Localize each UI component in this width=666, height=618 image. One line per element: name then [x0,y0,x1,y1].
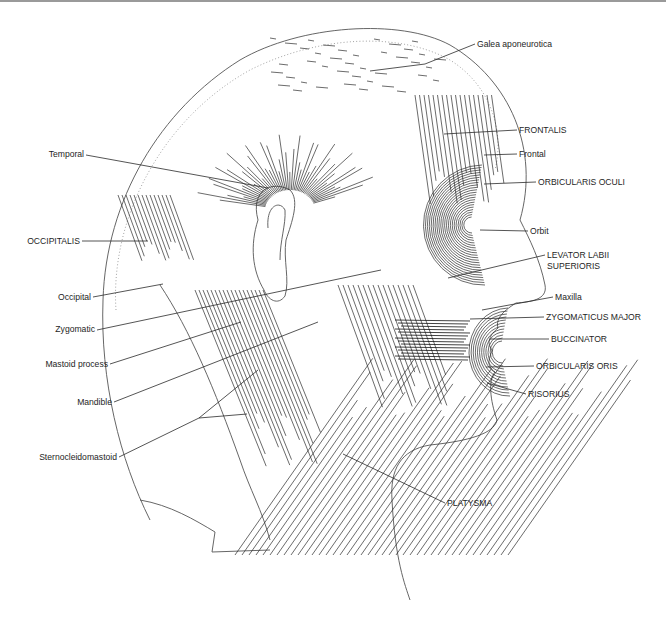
leader-line [444,130,517,134]
label-frontalis: FRONTALIS [444,125,567,135]
label-mandible: Mandible [77,322,318,407]
label-platysma: PLATYSMA [343,454,492,508]
leader-line [484,182,536,184]
label-orbicularis-oris: ORBICULARIS ORIS [486,361,618,371]
label-text: LEVATOR LABII [547,250,609,260]
label-text: Sternocleidomastoid [39,452,117,462]
platysma-fibers [235,358,638,555]
label-text: Occipital [58,292,91,302]
label-maxilla: Maxilla [482,292,582,310]
orbicularis-oris-rings [469,308,510,396]
label-text: OCCIPITALIS [27,236,80,246]
orbicularis-oculi-rings [423,165,485,285]
shoulder-outline [140,500,270,552]
masseter-fibers [338,285,447,407]
leader-line [484,154,517,155]
leader-line [97,270,381,330]
anatomy-figure: Galea aponeuroticaFRONTALISFrontalORBICU… [0,0,666,618]
label-sternocleidomastoid: Sternocleidomastoid [39,370,258,462]
label-text: Orbit [530,226,549,236]
leader-line [370,44,475,71]
label-text: RISORIUS [528,389,570,399]
leader-line [480,230,528,231]
label-text: ORBICULARIS ORIS [536,361,618,371]
ear [253,186,295,301]
leader-line [470,317,544,319]
leader-line [119,370,258,457]
skull-dotted-outline [116,41,498,310]
label-text: Temporal [49,149,84,159]
head-outline [103,29,546,600]
label-text: ORBICULARIS OCULI [538,177,625,187]
occipitalis-fibers [118,195,194,261]
label-text: PLATYSMA [447,498,492,508]
neck-back-outline [160,285,270,540]
label-text: Mastoid process [45,359,108,369]
buccinator-fibers [395,320,470,360]
label-text: SUPERIORIS [547,261,600,271]
label-text: ZYGOMATICUS MAJOR [546,312,641,322]
leader-line [486,366,534,367]
label-text: FRONTALIS [519,125,567,135]
label-buccinator: BUCCINATOR [490,334,607,344]
leader-line [86,155,268,188]
label-text: Frontal [519,149,546,159]
label-galea-aponeurotica: Galea aponeurotica [370,39,552,71]
label-occipitalis: OCCIPITALIS [27,236,148,246]
label-orbit: Orbit [480,226,549,236]
label-text: Galea aponeurotica [477,39,552,49]
label-frontal: Frontal [484,149,546,159]
label-text: Zygomatic [55,324,95,334]
label-text: Maxilla [555,292,582,302]
ear-inner [268,205,285,260]
label-levator-labii-superioris: LEVATOR LABIISUPERIORIS [448,250,609,278]
temporalis-fibers [198,135,373,207]
label-text: BUCCINATOR [551,334,607,344]
sternocleidomastoid-fibers [195,290,321,466]
leader-line [482,297,553,310]
muscle-fibers [118,95,638,555]
label-temporal: Temporal [49,149,268,188]
label-occipital: Occipital [58,284,163,302]
label-orbicularis-oculi: ORBICULARIS OCULI [484,177,625,187]
leader-line [110,322,241,364]
label-text: Mandible [77,397,112,407]
